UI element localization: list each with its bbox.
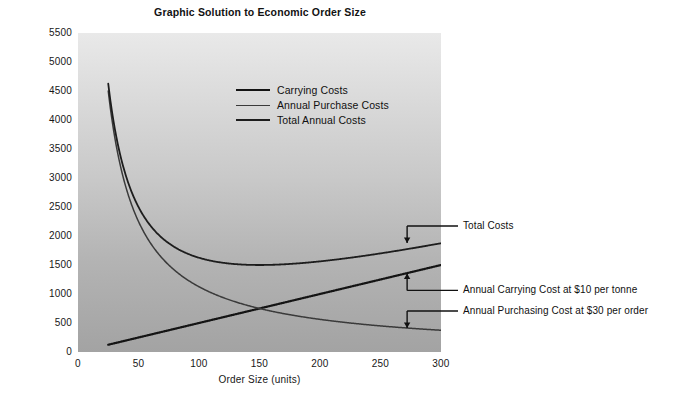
chart-figure: Graphic Solution to Economic Order Size … <box>0 0 689 396</box>
legend-item[interactable]: Carrying Costs <box>236 83 348 97</box>
legend-swatch-icon <box>236 105 270 106</box>
legend-item[interactable]: Annual Purchase Costs <box>236 98 389 112</box>
legend-swatch-icon <box>236 119 270 121</box>
annotation-arrow-icon <box>404 237 410 243</box>
legend-label: Carrying Costs <box>277 84 348 96</box>
annotation-label: Total Costs <box>463 220 514 231</box>
annotation-label: Annual Purchasing Cost at $30 per order <box>463 305 648 316</box>
annotation-label: Annual Carrying Cost at $10 per tonne <box>463 284 637 295</box>
legend-label: Annual Purchase Costs <box>277 99 389 111</box>
annotation-arrow-icon <box>404 273 410 279</box>
annotation-arrow-icon <box>404 322 410 328</box>
legend-label: Total Annual Costs <box>277 114 366 126</box>
annotation-layer <box>0 0 689 396</box>
legend-item[interactable]: Total Annual Costs <box>236 113 366 127</box>
legend-swatch-icon <box>236 89 270 91</box>
